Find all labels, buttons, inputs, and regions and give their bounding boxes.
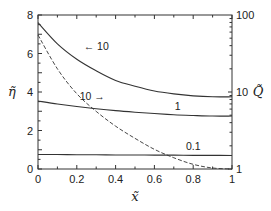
plot-frame [38,15,232,169]
y-tick-label: 0 [27,163,33,175]
x-tick-label: 0 [35,173,41,185]
y-tick-label: 8 [27,9,33,21]
curve-annotation: 0.1 [186,140,201,152]
x-tick-label: 1 [229,173,235,185]
x-axis-label: x̃ [131,189,139,204]
x-tick-label: 0.8 [186,173,201,185]
axes: 00.20.40.60.8102468110100x̃η̃Q̃ [8,9,264,204]
series-line-1 [38,101,232,116]
curve-annotation: 10 → [80,90,105,102]
y-tick-label: 6 [27,48,33,60]
curve-annotation: ← 10 [84,40,109,52]
y2-axis-label: Q̃ [253,84,264,99]
y2-tick-label: 1 [236,163,242,175]
x-tick-label: 0.4 [108,173,123,185]
y2-tick-label: 100 [236,9,254,21]
curves [38,23,232,169]
y2-tick-label: 10 [236,86,248,98]
chart: 00.20.40.60.8102468110100x̃η̃Q̃ ← 1010 →… [0,0,271,211]
series-line-2 [38,155,232,156]
labels: ← 1010 →10.1 [80,40,201,152]
y-axis-label: η̃ [8,84,16,99]
x-tick-label: 0.2 [69,173,84,185]
curve-annotation: 1 [175,100,181,112]
y-tick-label: 2 [27,125,33,137]
series-line-0 [38,23,232,97]
y-tick-label: 4 [27,86,33,98]
x-tick-label: 0.6 [147,173,162,185]
series-line-3 [38,35,232,169]
